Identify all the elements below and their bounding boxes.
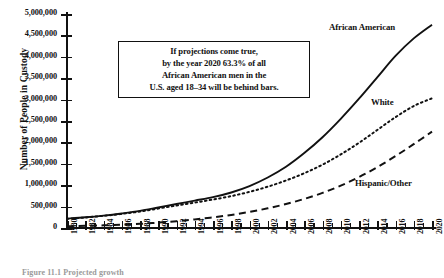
series-label-hispanic-other: Hispanic/Other (355, 178, 412, 188)
series-line-white (67, 98, 432, 218)
series-label-white: White (371, 97, 393, 107)
note-line-2: by the year 2020 63.3% of all (122, 58, 306, 70)
series-label-african-american: African American (329, 22, 395, 32)
figure-caption: Figure 11.1 Projected growth (22, 268, 124, 277)
note-line-4: U.S. aged 18–34 will be behind bars. (122, 82, 306, 94)
projection-note-box: If projections come true, by the year 20… (118, 41, 310, 98)
note-line-3: African American men in the (122, 70, 306, 82)
note-line-1: If projections come true, (122, 46, 306, 58)
